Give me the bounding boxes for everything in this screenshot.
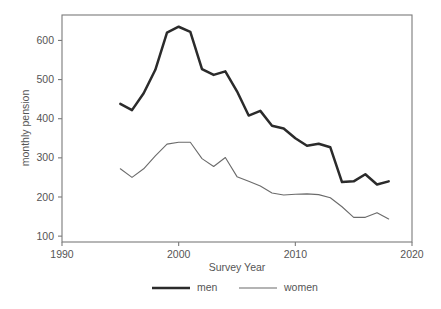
y-tick-label: 200 (36, 191, 54, 203)
legend-label-women: women (283, 281, 318, 293)
x-axis-title: Survey Year (209, 261, 266, 273)
x-tick-label: 2010 (284, 248, 308, 260)
pension-line-chart: 100200300400500600 1990200020102020 Surv… (0, 0, 441, 309)
y-axis-title: monthly pension (19, 90, 31, 167)
y-tick-label: 600 (36, 34, 54, 46)
x-tick-label: 2020 (400, 248, 424, 260)
legend-label-men: men (197, 281, 218, 293)
y-tick-label: 300 (36, 151, 54, 163)
y-tick-label: 500 (36, 73, 54, 85)
y-tick-label: 100 (36, 230, 54, 242)
x-tick-label: 1990 (50, 248, 74, 260)
x-tick-label: 2000 (167, 248, 191, 260)
y-tick-label: 400 (36, 112, 54, 124)
